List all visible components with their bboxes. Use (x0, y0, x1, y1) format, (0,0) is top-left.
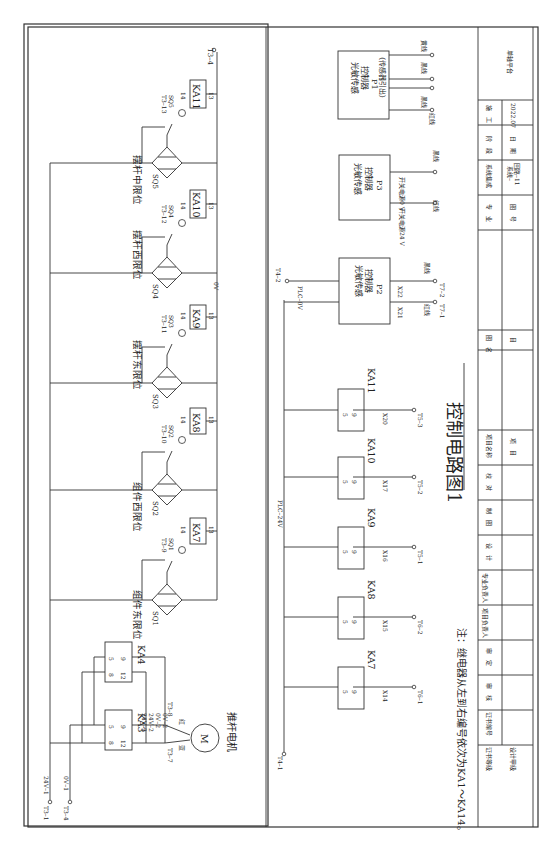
terminal-icon (430, 108, 434, 112)
sensor-sq1: SQ1 组件东限位 T3–9 SQ1 KA7 14 13 (50, 518, 217, 640)
label-plc-outputs-0-terminal: T6–1 (417, 690, 424, 705)
wire-line (167, 124, 172, 135)
lamp-icon (179, 547, 186, 554)
label-plc-outputs-2-relay: KA9 (366, 508, 377, 528)
label-controllers-p2-line2: 控制器 (364, 269, 374, 293)
controller-p1: 光敏传感 控制器 P1 （传感器引出） 黄线 黑线 黑线 红线 (338, 40, 436, 125)
label-motor-symbol: M (199, 734, 210, 744)
label-sensors-1-id: SQ2 (151, 501, 159, 516)
schematic-canvas: T3–4 0V SQ5 摆杆中限位 T3–13 SQ5 KA11 14 13 (0, 0, 552, 854)
sensor-sq4: SQ4 摆杆西限位 T3–12 SQ4 KA10 14 13 (50, 190, 217, 300)
label-title-block-roles-7: 制 图 (485, 508, 493, 526)
label-plc-outputs-0-pin-a: 5 (342, 690, 349, 694)
label-sensors-0-relay: KA7 (191, 523, 202, 543)
label-title-block-platform: 单轴平台 (506, 50, 514, 74)
label-title-block-roles-4: 项目负责人 (481, 608, 489, 638)
label-controllers-p3-sw0: 开关电源0 V (398, 177, 406, 212)
controller-p2: 光敏传感 控制器 P2 X22 X21 黑线 红线 T7–2 T7–1 (339, 258, 446, 324)
label-motor-relays-0-pins-2: 5 (108, 725, 115, 729)
label-sensors-2-id: SQ3 (151, 394, 159, 409)
label-t3-4-right: T3–4 (206, 48, 214, 66)
label-controllers-p2-line1: 光敏传感 (354, 265, 364, 297)
label-plc-outputs-1-pin-a: 5 (342, 620, 349, 624)
label-sensors-4-id: SQ5 (168, 95, 175, 108)
plc-output-ka9: KA9 X16 T5–1 5 9 (284, 508, 424, 569)
label-sensors-4-relay: KA11 (191, 84, 202, 110)
label-controllers-p2-black: 黑线 (423, 262, 431, 274)
label-power-v24-1: 24V–1 (43, 776, 50, 795)
label-motor-blue: 蓝 (179, 745, 186, 751)
label-title-block-sub-label: 目 (509, 337, 517, 343)
label-title-block-specialty-label: 专 业 (485, 204, 493, 222)
label-sensors-1-id: SQ2 (168, 425, 175, 438)
label-sensors-0-id: SQ1 (168, 538, 175, 551)
wire-line (167, 234, 172, 245)
label-controllers-p1-line3: （传感器引出） (378, 53, 387, 102)
label-plc-t4-2: T4–2 (275, 268, 282, 283)
wire-line (165, 740, 190, 743)
label-plc-outputs-1-relay: KA8 (366, 580, 377, 600)
drawing-title: 控制电路图1 (444, 402, 465, 503)
label-plc-outputs-2-pin-b: 9 (351, 550, 358, 554)
label-title-block-roles-0: 证书等级 (485, 747, 493, 771)
terminal-icon (430, 86, 434, 90)
label-sensors-0-terminal: T3–9 (161, 538, 168, 553)
label-controllers-p2-t7-1: T7–1 (439, 304, 446, 319)
wire-line (338, 457, 364, 499)
label-plc-outputs-4-pin-b: 9 (351, 413, 358, 417)
label-controllers-p2-red: 红线 (424, 304, 431, 316)
terminal-icon (412, 475, 416, 479)
label-controllers-p3-line2: 控制器 (364, 167, 374, 191)
sensor-sq2: SQ2 组件西限位 T3–10 SQ2 KA8 14 13 (50, 408, 217, 532)
label-motor-relays-1-name: KA4 (136, 645, 147, 665)
label-plc-outputs-3-input: X17 (382, 480, 389, 492)
label-sensors-3-pin-b: 13 (208, 202, 215, 210)
label-title-block-roles-8: 校 对 (485, 473, 493, 491)
label-plc-outputs-1-pin-b: 9 (351, 620, 358, 624)
label-title-block-date-value: 2022.07 (510, 103, 517, 128)
label-sensors-3-terminal: T3–12 (161, 205, 168, 224)
motor-label: 推杆电机 (226, 712, 238, 752)
label-plc-outputs-3-relay: KA10 (366, 438, 377, 464)
label-sensors-2-label: 摆杆东限位 (132, 340, 143, 390)
wire-line (338, 597, 364, 639)
terminal-t3-4-left (68, 800, 72, 804)
label-title-block-cert-grade: 设计甲级 (509, 747, 517, 771)
label-title-block-project-name-label: 项目名称 (485, 434, 493, 458)
terminal-icon (433, 300, 437, 304)
label-power-v0-1: 0V–1 (63, 776, 70, 791)
lamp-icon (179, 110, 186, 117)
label-sensors-0-label: 组件东限位 (132, 590, 143, 640)
label-motor-relays-0-pins-1: 12 (120, 740, 127, 748)
label-sensors-4-id: SQ5 (151, 174, 159, 189)
label-sensors-2-pin-b: 13 (208, 312, 215, 320)
label-controllers-p1-wires-1: 黑线 (420, 96, 428, 108)
plc-output-ka11: KA11 X20 T5–3 5 9 (284, 368, 424, 431)
label-plc-outputs-0-input: X14 (382, 690, 389, 702)
label-plc-outputs-2-pin-a: 5 (342, 550, 349, 554)
label-plc-outputs-4-pin-a: 5 (342, 413, 349, 417)
label-title-block-roles-1: 证书编号 (485, 712, 493, 736)
label-title-block-roles-5: 专业负责人 (481, 573, 489, 603)
label-sensors-4-pin-b: 13 (208, 92, 215, 100)
label-sensors-1-pin-b: 13 (208, 416, 215, 424)
label-sensors-3-id: SQ4 (168, 205, 175, 218)
label-title-block-drawing-no-value: 系统– (506, 166, 514, 181)
lamp-icon (179, 220, 186, 227)
label-0v: 0V (213, 282, 220, 291)
wire-line (167, 451, 172, 462)
label-title-block-drawing-label: 图 名 (485, 335, 493, 353)
label-motor-wires-2: 0V–2 (155, 713, 162, 728)
label-controllers-p3-sw24: 开关电源24 V (398, 208, 406, 247)
terminal-icon (433, 170, 437, 174)
label-title-block-roles-2: 审 核 (485, 683, 493, 701)
label-sensors-1-terminal: T3–10 (161, 425, 168, 444)
wire-line (167, 344, 172, 355)
label-motor-relays-1-pins-1: 12 (120, 672, 127, 680)
label-controllers-p3-id: P3 (375, 180, 384, 190)
label-motor-relays-1-pins-2: 5 (108, 657, 115, 661)
wire-line (167, 561, 172, 572)
label-title-block-drawing-no-value2: 回路–11 (513, 163, 521, 186)
label-title-block-roles-3: 审 定 (485, 648, 493, 666)
terminal-icon (412, 408, 416, 412)
